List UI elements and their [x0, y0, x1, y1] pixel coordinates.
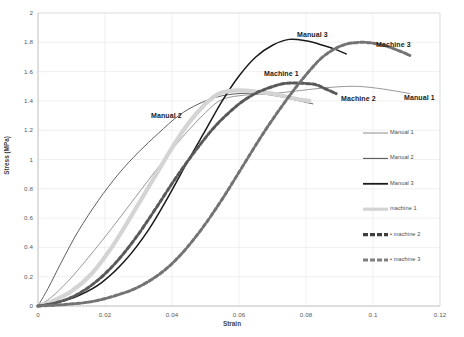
x-tick-label: 0	[23, 311, 53, 318]
y-tick-label: 1.6	[11, 68, 33, 75]
y-axis-title: Stress (MPa)	[3, 126, 10, 186]
series-line-manual-2	[38, 93, 313, 306]
y-tick-label: 1.4	[11, 97, 33, 104]
x-tick-label: 0.06	[224, 311, 254, 318]
x-tick-label: 0.12	[425, 311, 455, 318]
y-tick-label: 0.4	[11, 243, 33, 250]
annotation-machine-2: Machine 2	[341, 95, 376, 102]
x-tick-label: 0.08	[291, 311, 321, 318]
legend-label-manual-2: Manual 2	[390, 154, 414, 160]
annotation-manual-3: Manual 3	[297, 31, 328, 38]
x-tick-label: 0.1	[358, 311, 388, 318]
x-axis-title: Strain	[0, 320, 464, 327]
annotation-manual-1: Manual 1	[404, 94, 435, 101]
y-tick-label: 0.8	[11, 185, 33, 192]
x-tick-label: 0.02	[90, 311, 120, 318]
y-tick-label: 0	[11, 302, 33, 309]
annotation-manual-2: Manual 2	[151, 112, 182, 119]
x-tick-label: 0.04	[157, 311, 187, 318]
series-line-machine-3	[38, 42, 410, 306]
legend-label-machine-2: • machine 2	[390, 231, 420, 237]
series-line-machine-2	[38, 83, 336, 306]
legend-swatches	[363, 133, 388, 260]
gridlines	[38, 13, 440, 306]
legend-label-machine-3: • machine 3	[390, 256, 420, 262]
y-tick-label: 1.8	[11, 38, 33, 45]
annotation-machine-3: Machine 3	[376, 41, 411, 48]
y-tick-label: 0.6	[11, 214, 33, 221]
plot-canvas	[0, 0, 464, 337]
y-tick-label: 0.2	[11, 273, 33, 280]
legend-label-manual-3: Manual 3	[390, 180, 414, 186]
y-tick-label: 1	[11, 156, 33, 163]
legend-label-machine-1: machine 1	[390, 205, 417, 211]
annotation-machine-1: Machine 1	[264, 70, 299, 77]
legend-label-manual-1: Manual 1	[390, 129, 414, 135]
y-tick-label: 2	[11, 9, 33, 16]
series-line-manual-3	[38, 39, 346, 306]
data-series	[38, 39, 410, 306]
stress-strain-chart: 00.20.40.60.811.21.41.61.82 00.020.040.0…	[0, 0, 464, 337]
y-tick-label: 1.2	[11, 126, 33, 133]
